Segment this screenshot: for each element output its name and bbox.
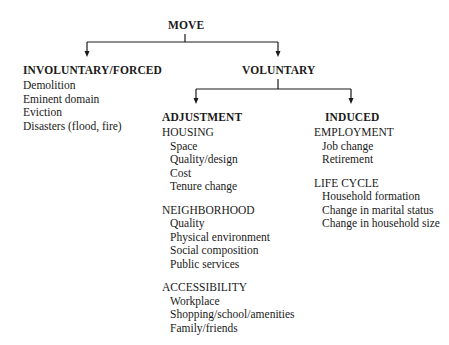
life-cycle-item: Household formation — [314, 190, 440, 204]
accessibility-heading: ACCESSIBILITY — [162, 281, 295, 295]
voluntary-node: VOLUNTARY — [242, 64, 316, 76]
accessibility-item: Shopping/school/amenities — [162, 308, 295, 322]
life-cycle-heading: LIFE CYCLE — [314, 177, 440, 191]
employment-heading: EMPLOYMENT — [314, 126, 440, 140]
voluntary-branch-connector — [196, 79, 351, 98]
life-cycle-group: LIFE CYCLE Household formation Change in… — [314, 177, 440, 231]
employment-item: Retirement — [314, 153, 440, 167]
neighborhood-item: Public services — [162, 258, 295, 272]
involuntary-heading: INVOLUNTARY/FORCED — [23, 64, 162, 76]
arrow-to-induced-icon — [349, 98, 354, 104]
adjustment-heading: ADJUSTMENT — [162, 111, 295, 123]
neighborhood-item: Quality — [162, 217, 295, 231]
housing-group: HOUSING Space Quality/design Cost Tenure… — [162, 126, 295, 194]
neighborhood-item: Social composition — [162, 244, 295, 258]
life-cycle-item: Change in marital status — [314, 204, 440, 218]
housing-item: Tenure change — [162, 180, 295, 194]
housing-item: Space — [162, 140, 295, 154]
involuntary-item: Disasters (flood, fire) — [23, 120, 162, 134]
housing-heading: HOUSING — [162, 126, 295, 140]
neighborhood-heading: NEIGHBORHOOD — [162, 204, 295, 218]
involuntary-item: Eviction — [23, 106, 162, 120]
accessibility-group: ACCESSIBILITY Workplace Shopping/school/… — [162, 281, 295, 335]
housing-item: Quality/design — [162, 153, 295, 167]
arrow-to-adjustment-icon — [194, 98, 199, 104]
arrow-to-involuntary-icon — [85, 51, 90, 57]
involuntary-item: Eminent domain — [23, 93, 162, 107]
neighborhood-item: Physical environment — [162, 231, 295, 245]
housing-item: Cost — [162, 167, 295, 181]
employment-group: EMPLOYMENT Job change Retirement — [314, 126, 440, 167]
adjustment-node: ADJUSTMENT HOUSING Space Quality/design … — [162, 111, 295, 345]
accessibility-item: Workplace — [162, 295, 295, 309]
life-cycle-item: Change in household size — [314, 217, 440, 231]
involuntary-node: INVOLUNTARY/FORCED Demolition Eminent do… — [23, 64, 162, 133]
induced-node: INDUCED EMPLOYMENT Job change Retirement… — [314, 111, 440, 241]
arrow-to-voluntary-icon — [276, 51, 281, 57]
move-branch-connector — [87, 34, 278, 51]
employment-item: Job change — [314, 140, 440, 154]
neighborhood-group: NEIGHBORHOOD Quality Physical environmen… — [162, 204, 295, 272]
accessibility-item: Family/friends — [162, 322, 295, 336]
induced-heading: INDUCED — [314, 111, 440, 123]
move-node: MOVE — [168, 19, 204, 31]
involuntary-item: Demolition — [23, 79, 162, 93]
